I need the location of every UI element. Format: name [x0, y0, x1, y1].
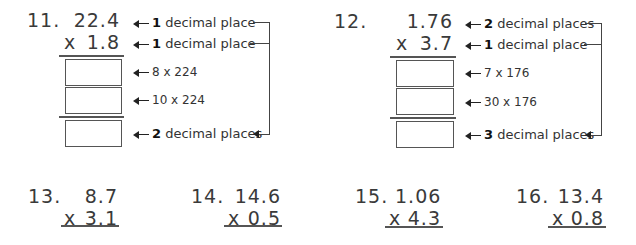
- left-arrow-icon: [133, 69, 149, 77]
- partial-2-note: 10 x 224: [133, 93, 205, 107]
- multiplicand-decimal-note: 2 decimal places: [465, 16, 594, 31]
- problem-number: 13.: [28, 185, 61, 207]
- bracket-middle: [584, 44, 602, 45]
- multiplicand: 1.76: [400, 10, 453, 32]
- bracket-top: [585, 23, 602, 24]
- partial-1-note: 7 x 176: [465, 66, 529, 80]
- bracket-top: [253, 22, 270, 23]
- underline: [548, 226, 606, 228]
- bracket-vertical: [601, 23, 602, 136]
- sum-line: [390, 117, 456, 119]
- partial-1-note: 8 x 224: [133, 65, 197, 79]
- left-arrow-icon: [465, 70, 481, 78]
- product-answer-box[interactable]: [65, 120, 122, 147]
- product-decimal-note: 2 decimal places: [133, 126, 262, 141]
- partial-product-1-answer-box[interactable]: [65, 59, 122, 86]
- multiplier: 1.8: [80, 31, 120, 53]
- left-arrow-icon: [133, 131, 149, 139]
- left-arrow-icon: [133, 41, 149, 49]
- bracket-bottom: [258, 134, 270, 135]
- multiplicand: 8.7: [70, 185, 118, 207]
- partial-2-note: 30 x 176: [465, 95, 537, 109]
- bracket-arrow-icon: [253, 130, 259, 138]
- multiply-sign: x: [396, 32, 408, 54]
- multiplier-decimal-note: 1 decimal place: [133, 36, 256, 51]
- bracket-vertical: [269, 22, 270, 135]
- sum-line: [59, 116, 124, 118]
- multiplicand: 22.4: [70, 9, 120, 31]
- problem-number: 11.: [27, 9, 60, 31]
- left-arrow-icon: [465, 42, 481, 50]
- multiply-sign: x: [64, 31, 76, 53]
- underline: [224, 225, 282, 227]
- bracket-arrow-icon: [585, 131, 591, 139]
- partial-product-1-answer-box[interactable]: [396, 60, 454, 87]
- problem-number: 12.: [334, 10, 367, 32]
- left-arrow-icon: [133, 97, 149, 105]
- product-answer-box[interactable]: [396, 121, 454, 148]
- left-arrow-icon: [133, 20, 149, 28]
- product-decimal-note: 3 decimal places: [465, 127, 594, 142]
- multiplicand: 13.4: [556, 185, 604, 207]
- left-arrow-icon: [465, 99, 481, 107]
- left-arrow-icon: [465, 21, 481, 29]
- multiplicand: 1.06: [395, 185, 441, 207]
- multiplier: 3.7: [413, 32, 453, 54]
- bracket-middle: [250, 43, 270, 44]
- underline: [385, 226, 443, 228]
- multiplier-decimal-note: 1 decimal place: [465, 37, 588, 52]
- multiplicand-decimal-note: 1 decimal place: [133, 15, 256, 30]
- underline: [61, 225, 119, 227]
- multiplicand: 14.6: [230, 185, 281, 207]
- underline: [390, 56, 456, 58]
- problem-number: 15.: [355, 185, 388, 207]
- partial-product-2-answer-box[interactable]: [65, 87, 122, 114]
- problem-number: 14.: [191, 185, 224, 207]
- left-arrow-icon: [465, 132, 481, 140]
- underline: [59, 55, 124, 57]
- partial-product-2-answer-box[interactable]: [396, 88, 454, 115]
- problem-number: 16.: [516, 185, 549, 207]
